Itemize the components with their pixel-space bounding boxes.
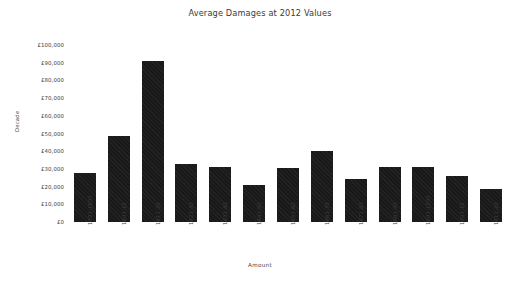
bar-rect (175, 164, 197, 222)
x-axis-tick-label: 1811-20 (155, 202, 161, 225)
y-axis-tick-label: £60,000 (41, 113, 64, 119)
x-axis-tick-label: 1791-1800 (87, 195, 93, 225)
x-axis-tick-label-group: 1791-18001801-101811-201821-301831-40184… (68, 224, 508, 264)
bar (209, 45, 231, 222)
y-axis-tick-label: £0 (57, 219, 64, 225)
bar (412, 45, 434, 222)
chart-title: Average Damages at 2012 Values (0, 8, 520, 18)
bar (142, 45, 164, 222)
x-axis-tick-label: 1841-50 (256, 202, 262, 225)
x-axis-tick-label: 1901-10 (459, 202, 465, 225)
bar (175, 45, 197, 222)
bar (277, 45, 299, 222)
x-axis-tick-label: 1801-10 (121, 202, 127, 225)
plot-area (68, 45, 508, 222)
bar-rect (142, 61, 164, 222)
x-axis-tick-label: 1881-90 (392, 202, 398, 225)
y-axis-tick-label: £20,000 (41, 184, 64, 190)
bar (311, 45, 333, 222)
bar (480, 45, 502, 222)
x-axis-tick-label: 1871-80 (358, 202, 364, 225)
y-axis-tick-label-group: £100,000£90,000£80,000£70,000£60,000£50,… (0, 0, 68, 285)
y-axis-tick-label: £80,000 (41, 77, 64, 83)
x-axis-title: Amount (0, 262, 520, 268)
bar-chart-figure: Average Damages at 2012 Values Decade £1… (0, 0, 520, 285)
bar (243, 45, 265, 222)
bar-rect (412, 167, 434, 222)
x-axis-tick-label: 1821-30 (188, 202, 194, 225)
y-axis-tick-label: £10,000 (41, 201, 64, 207)
x-axis-tick-label: 1831-40 (222, 202, 228, 225)
y-axis-tick-label: £90,000 (41, 60, 64, 66)
x-axis-tick-label: 1891-1900 (425, 195, 431, 225)
y-axis-tick-label: £50,000 (41, 131, 64, 137)
bar (446, 45, 468, 222)
y-axis-tick-label: £70,000 (41, 95, 64, 101)
bar (108, 45, 130, 222)
y-axis-tick-label: £100,000 (37, 42, 64, 48)
bar (379, 45, 401, 222)
x-axis-tick-label: 1851-60 (290, 202, 296, 225)
x-axis-tick-label: 1861-70 (324, 202, 330, 225)
y-axis-tick-label: £30,000 (41, 166, 64, 172)
bar (345, 45, 367, 222)
x-axis-tick-label: 1911-20 (493, 202, 499, 225)
y-axis-tick-label: £40,000 (41, 148, 64, 154)
